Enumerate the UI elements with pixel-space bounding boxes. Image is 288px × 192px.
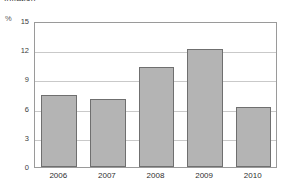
x-axis-tick-labels: 20062007200820092010 [34, 170, 277, 184]
x-axis-tick-label: 2008 [131, 170, 180, 182]
bar [41, 95, 77, 167]
y-axis-tick-label: 3 [5, 135, 29, 143]
x-axis-tick-label: 2009 [180, 170, 229, 182]
chart-screenshot: Inflation % 03691215 2006200720082009201… [0, 0, 288, 192]
y-axis-tick-label: 0 [5, 164, 29, 172]
chart-title: Inflation [4, 0, 36, 3]
y-axis-tick-label: 15 [5, 18, 29, 26]
y-axis-tick-label: 6 [5, 106, 29, 114]
bar [236, 107, 272, 167]
y-axis-tick-label: 12 [5, 47, 29, 55]
plot-area [34, 22, 277, 168]
x-axis-tick-label: 2010 [228, 170, 277, 182]
y-axis-tick-labels: 03691215 [0, 22, 32, 168]
bar [90, 99, 126, 167]
bar [139, 67, 175, 167]
x-axis-tick-label: 2006 [34, 170, 83, 182]
y-axis-tick-label: 9 [5, 76, 29, 84]
bar-series [35, 23, 276, 167]
x-axis-tick-label: 2007 [83, 170, 132, 182]
bar [187, 49, 223, 167]
